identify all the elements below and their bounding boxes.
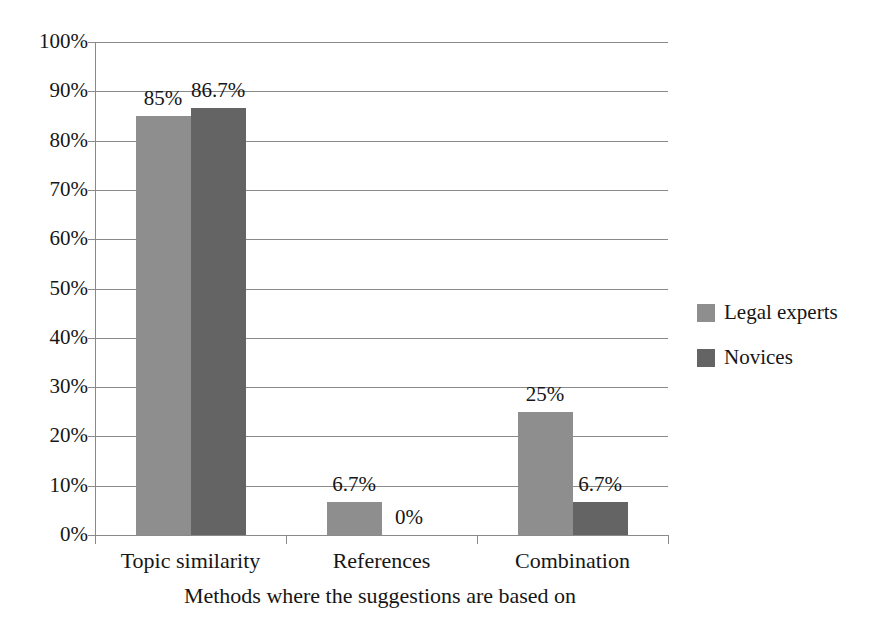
- x-tick: [477, 535, 478, 544]
- bar-value-label: 86.7%: [179, 80, 258, 101]
- y-axis-tick-label: 0%: [10, 524, 88, 545]
- x-axis-title: Methods where the suggestions are based …: [0, 583, 760, 609]
- legend-item-legal-experts: Legal experts: [697, 302, 838, 323]
- y-axis-tick-label: 90%: [10, 80, 88, 101]
- y-axis-tick-label: 80%: [10, 130, 88, 151]
- x-axis-category-label: Combination: [477, 548, 668, 574]
- legend: Legal experts Novices: [697, 302, 838, 392]
- y-axis-tick-label: 70%: [10, 179, 88, 200]
- legend-label: Legal experts: [724, 302, 838, 323]
- x-tick: [668, 535, 669, 544]
- bar-value-label: 6.7%: [315, 474, 394, 495]
- bar-value-label: 25%: [506, 384, 585, 405]
- x-axis-category-label: Topic similarity: [95, 548, 286, 574]
- bar-legal-experts: [136, 116, 191, 535]
- bar-novices: [573, 502, 628, 535]
- bar-value-label: 6.7%: [561, 474, 640, 495]
- y-axis-tick-label: 50%: [10, 278, 88, 299]
- bar-chart: 0%10%20%30%40%50%60%70%80%90%100% 85%86.…: [0, 0, 872, 627]
- legend-swatch-icon: [697, 349, 715, 367]
- plot-area: [95, 42, 668, 535]
- y-axis-tick-label: 10%: [10, 475, 88, 496]
- x-tick: [95, 535, 96, 544]
- bar-novices: [191, 108, 246, 535]
- y-axis-tick-label: 20%: [10, 425, 88, 446]
- y-axis-tick-label: 40%: [10, 327, 88, 348]
- legend-item-novices: Novices: [697, 347, 838, 368]
- y-axis-tick-label: 100%: [10, 31, 88, 52]
- legend-label: Novices: [724, 347, 793, 368]
- y-axis-tick-label: 30%: [10, 376, 88, 397]
- legend-swatch-icon: [697, 304, 715, 322]
- x-axis-category-label: References: [286, 548, 477, 574]
- y-axis-tick-label: 60%: [10, 228, 88, 249]
- x-tick: [286, 535, 287, 544]
- bar-value-label: 0%: [370, 507, 449, 528]
- x-axis-line: [95, 535, 668, 536]
